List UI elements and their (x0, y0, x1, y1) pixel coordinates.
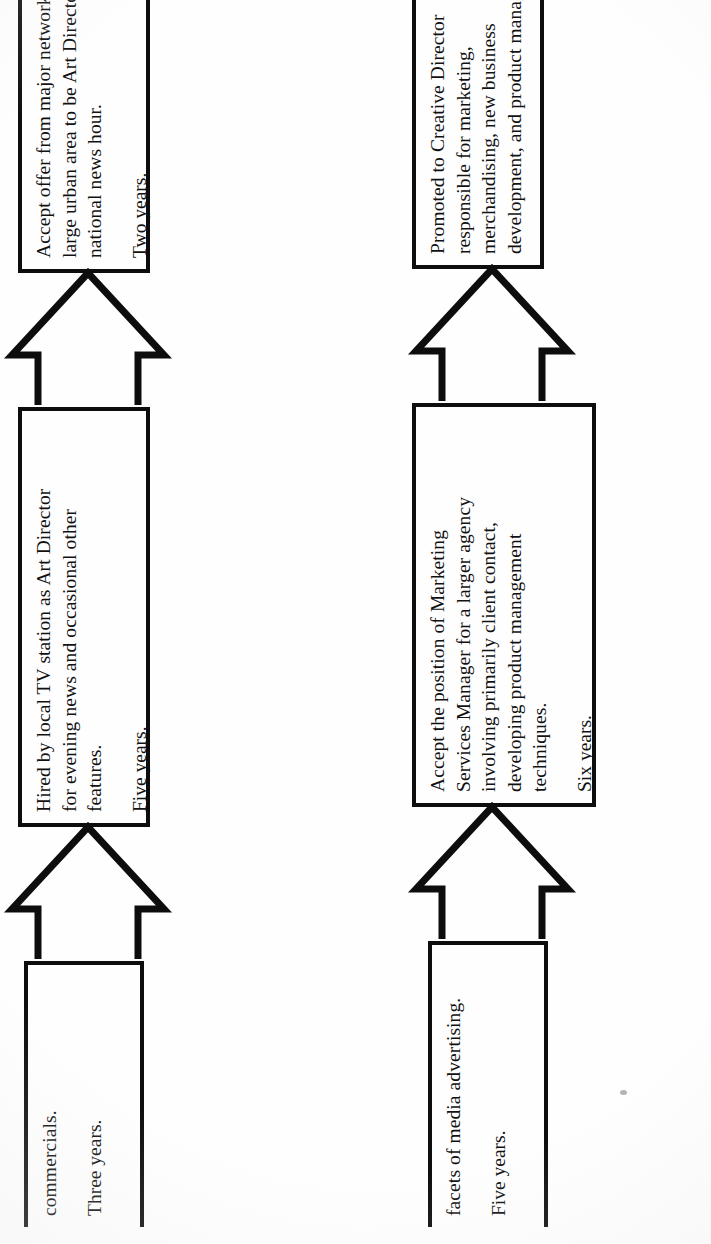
arrow-connector-icon (438, 805, 546, 941)
flow-box-line: responsible for marketing, (450, 0, 476, 254)
line-gap (62, 976, 81, 1216)
page-canvas: commercials. Three years. Hired by local… (0, 0, 711, 1244)
diagram-canvas: commercials. Three years. Hired by local… (6, 77, 706, 1167)
flow-box-line: facets of media advertising. (441, 956, 467, 1216)
flow-box-marketing-services-manager[interactable]: Accept the position of Marketing Service… (412, 403, 596, 807)
flow-box-duration: Two years. (126, 0, 152, 258)
line-gap (107, 0, 126, 258)
flow-box-line: developing product management (501, 418, 527, 792)
line-gap (107, 422, 126, 812)
flow-box-line: for evening news and occasional other (56, 422, 82, 812)
flow-box-duration: Three years. (81, 976, 107, 1216)
arrow-connector-icon (34, 271, 142, 407)
flow-box-line: Hired by local TV station as Art Directo… (31, 422, 57, 812)
flow-box-local-tv-station[interactable]: Hired by local TV station as Art Directo… (18, 407, 150, 827)
flow-box-line: merchandising, new business (476, 0, 502, 254)
arrow-connector-icon (438, 267, 546, 403)
flow-box-line: Accept the position of Marketing (425, 418, 451, 792)
flow-box-duration: Six years. (571, 418, 597, 792)
scan-speck (620, 1090, 627, 1095)
flow-box-line: involving primarily client contact, (476, 418, 502, 792)
flow-box-line: Services Manager for a larger agency (450, 418, 476, 792)
flow-box-media-advertising[interactable]: facets of media advertising. Five years. (428, 941, 548, 1227)
arrow-connector-icon (34, 825, 142, 961)
flow-box-line: Promoted to Creative Director (425, 0, 451, 254)
flow-box-line: features. (82, 422, 108, 812)
flow-box-major-network[interactable]: Accept offer from major network in large… (18, 0, 150, 273)
flow-box-line: techniques. (527, 418, 553, 792)
flow-box-line: large urban area to be Art Director on (56, 0, 82, 258)
flow-box-duration: Five years. (126, 422, 152, 812)
flow-box-line: commercials. (37, 976, 63, 1216)
flow-box-line: national news hour. (82, 0, 108, 258)
flow-box-line: Accept offer from major network in (31, 0, 57, 258)
flow-box-duration: Five years. (485, 956, 511, 1216)
flow-box-line: development, and product management. (501, 0, 527, 254)
flow-box-creative-director[interactable]: Promoted to Creative Director responsibl… (412, 0, 544, 269)
flow-box-commercials[interactable]: commercials. Three years. (24, 961, 144, 1227)
line-gap (466, 956, 485, 1216)
line-gap (552, 418, 571, 792)
